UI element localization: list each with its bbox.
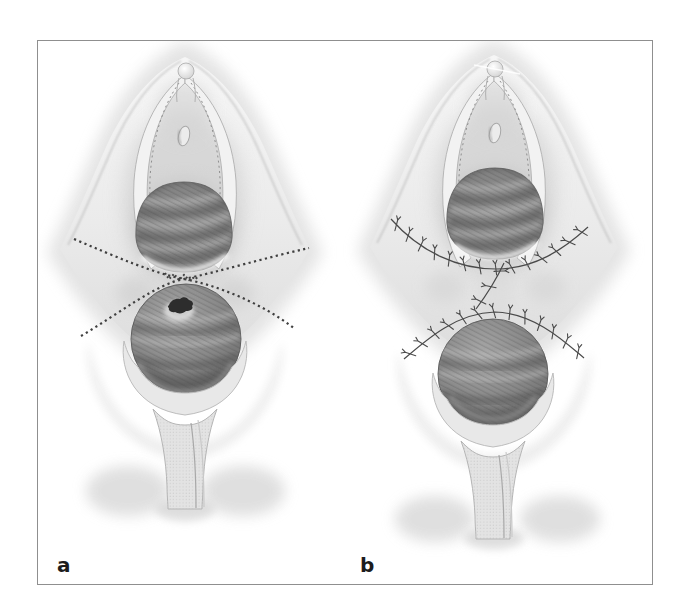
- panel-label-b: b: [360, 553, 374, 577]
- panel-label-a: a: [57, 553, 71, 577]
- perineal-patch-right: [526, 271, 566, 303]
- panel-b: b: [358, 41, 631, 577]
- buttock-lobe-left: [395, 496, 475, 542]
- buttock-lobe-right: [520, 496, 600, 542]
- figure-frame: a: [37, 40, 653, 585]
- surgical-illustration: a: [38, 41, 654, 586]
- perineal-patch-left: [425, 271, 465, 303]
- clitoral-glans: [178, 63, 194, 79]
- vaginal-rugae: [447, 168, 543, 259]
- panel-a: a: [48, 42, 323, 577]
